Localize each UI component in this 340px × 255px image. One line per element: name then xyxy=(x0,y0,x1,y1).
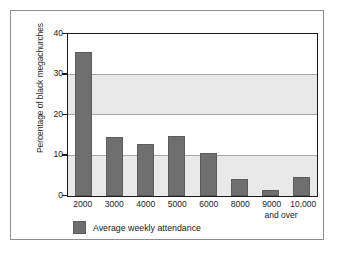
bar-chart: Percentage of black megachurches 0102030… xyxy=(11,11,325,241)
figure-frame: Percentage of black megachurches 0102030… xyxy=(10,10,324,240)
bar-slot xyxy=(130,34,161,196)
bar-slot xyxy=(68,34,99,196)
y-tick-label: 10 xyxy=(41,149,63,159)
bar-9000 xyxy=(262,190,279,196)
x-tick-label: 9000 xyxy=(256,199,288,209)
y-tick-label: 40 xyxy=(41,28,63,38)
bar-3000 xyxy=(106,137,123,196)
x-axis-sublabel: and over xyxy=(243,210,319,220)
plot-inner xyxy=(68,34,317,196)
bar-4000 xyxy=(137,144,154,196)
y-tick-label: 0 xyxy=(41,190,63,200)
bar-slot xyxy=(161,34,192,196)
x-axis-labels: 200030004000500060008000900010,000 xyxy=(67,199,319,209)
plot-area xyxy=(67,33,318,197)
bar-series xyxy=(68,34,317,196)
legend-label-average-weekly-attendance: Average weekly attendance xyxy=(93,223,201,233)
legend-swatch-average-weekly-attendance xyxy=(73,221,86,234)
x-tick-label: 3000 xyxy=(99,199,131,209)
bar-slot xyxy=(224,34,255,196)
chart-legend: Average weekly attendance xyxy=(73,221,201,234)
bar-slot xyxy=(286,34,317,196)
x-tick-label: 5000 xyxy=(162,199,194,209)
bar-slot xyxy=(193,34,224,196)
bar-slot xyxy=(99,34,130,196)
x-tick-label: 4000 xyxy=(130,199,162,209)
bar-5000 xyxy=(168,136,185,196)
y-tick-label: 30 xyxy=(41,68,63,78)
y-tick-label: 20 xyxy=(41,109,63,119)
x-tick-label: 8000 xyxy=(225,199,257,209)
x-tick-label: 2000 xyxy=(67,199,99,209)
bar-slot xyxy=(255,34,286,196)
x-tick-label: 10,000 xyxy=(288,199,320,209)
bar-2000 xyxy=(75,52,92,196)
x-tick-label: 6000 xyxy=(193,199,225,209)
bar-10000 xyxy=(293,177,310,196)
bar-8000 xyxy=(231,179,248,196)
bar-6000 xyxy=(200,153,217,196)
